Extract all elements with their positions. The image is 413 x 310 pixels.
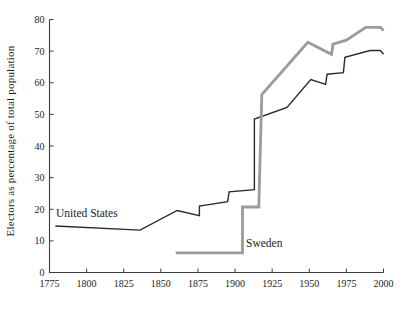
series-label-sweden: Sweden	[246, 237, 283, 249]
x-axis-tick-labels: 1775180018251850187519001925195019752000	[40, 278, 394, 289]
line-sweden	[176, 27, 384, 253]
x-tick-label: 1850	[151, 278, 171, 289]
x-tick-label: 1825	[114, 278, 134, 289]
y-tick-label: 70	[35, 46, 45, 57]
x-tick-label: 1950	[299, 278, 319, 289]
y-tick-label: 40	[35, 141, 45, 152]
x-tick-label: 2000	[374, 278, 394, 289]
x-tick-label: 1975	[336, 278, 356, 289]
x-tick-label: 1800	[77, 278, 97, 289]
y-tick-label: 30	[35, 172, 45, 183]
y-tick-label: 0	[40, 267, 45, 278]
line-united-states	[55, 51, 383, 231]
x-tick-label: 1900	[225, 278, 245, 289]
y-tick-label: 60	[35, 77, 45, 88]
y-tick-label: 20	[35, 204, 45, 215]
y-tick-label: 50	[35, 109, 45, 120]
x-tick-label: 1875	[188, 278, 208, 289]
x-tick-label: 1775	[40, 278, 60, 289]
data-series	[55, 27, 383, 253]
y-tick-label: 10	[35, 235, 45, 246]
y-axis-tick-labels: 01020304050607080	[35, 14, 45, 278]
y-tick-label: 80	[35, 14, 45, 25]
y-axis-ticks	[50, 20, 54, 273]
chart-canvas: 1775180018251850187519001925195019752000…	[0, 0, 413, 310]
y-axis-title: Electors as percentage of total populati…	[4, 45, 16, 236]
series-label-united-states: United States	[56, 207, 118, 219]
electors-line-chart-figure: 1775180018251850187519001925195019752000…	[0, 0, 413, 310]
axes	[50, 20, 384, 273]
x-tick-label: 1925	[262, 278, 282, 289]
x-axis-ticks	[50, 269, 384, 273]
